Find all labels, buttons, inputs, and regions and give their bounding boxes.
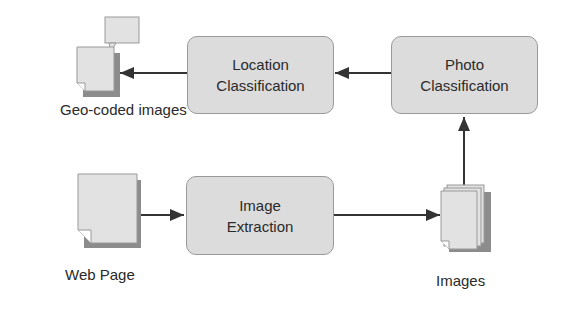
images-stack-icon — [440, 184, 492, 254]
photo-classification-line2: Classification — [420, 75, 508, 96]
geocoded-images-label: Geo-coded images — [60, 101, 187, 118]
callout-bubble-icon — [105, 17, 139, 43]
webpage-document-icon — [77, 173, 143, 249]
image-extraction-node[interactable]: Image Extraction — [186, 176, 334, 255]
image-extraction-line1: Image — [239, 195, 281, 216]
geocoded-document-icon — [76, 16, 142, 98]
location-classification-line2: Classification — [216, 75, 304, 96]
location-classification-line1: Location — [232, 54, 289, 75]
photo-classification-line1: Photo — [445, 54, 484, 75]
photo-classification-node[interactable]: Photo Classification — [391, 36, 538, 114]
image-extraction-line2: Extraction — [227, 216, 294, 237]
web-page-label: Web Page — [65, 266, 135, 283]
location-classification-node[interactable]: Location Classification — [187, 36, 334, 114]
images-label: Images — [436, 272, 485, 289]
